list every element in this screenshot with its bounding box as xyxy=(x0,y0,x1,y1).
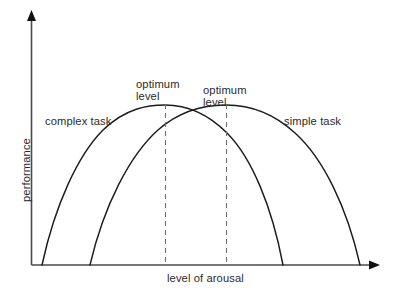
optimum-level-left-line1: optimum xyxy=(136,78,180,91)
y-axis-arrowhead-icon xyxy=(27,10,36,21)
series-label-complex-task: complex task xyxy=(45,115,111,128)
optimum-level-right-line1: optimum xyxy=(203,84,247,97)
chart-canvas xyxy=(0,0,399,295)
x-axis-arrowhead-icon xyxy=(369,261,380,270)
chart-figure: performance level of arousal complex tas… xyxy=(0,0,399,295)
x-axis-label: level of arousal xyxy=(167,272,244,285)
simple-task-curve xyxy=(90,105,360,265)
series-label-simple-task: simple task xyxy=(284,115,341,128)
y-axis-label: performance xyxy=(20,138,33,202)
complex-task-curve xyxy=(42,105,283,265)
optimum-level-left-line2: level xyxy=(136,90,160,103)
optimum-level-right-line2: level xyxy=(203,96,227,109)
